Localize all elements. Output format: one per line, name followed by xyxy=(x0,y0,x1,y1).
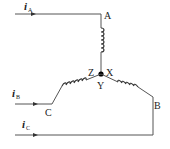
winding-a-coil xyxy=(101,28,104,52)
line-c-input xyxy=(15,133,153,137)
terminal-label-c: C xyxy=(45,107,52,118)
terminal-label-b: B xyxy=(154,100,161,111)
current-subscript-a: A xyxy=(28,7,33,13)
neutral-label-z: Z xyxy=(88,67,94,78)
winding-b-coil xyxy=(118,80,138,87)
arrow-icon xyxy=(33,102,38,106)
winding-c-coil xyxy=(62,78,86,86)
current-subscript-b: B xyxy=(16,94,20,100)
line-b-input xyxy=(15,102,52,106)
terminal-label-a: A xyxy=(104,10,112,21)
current-subscript-c: C xyxy=(26,125,30,131)
line-a xyxy=(15,12,101,28)
star-connection-diagram: i A A Z X Y i B C B i C xyxy=(0,0,170,149)
arrow-icon xyxy=(33,133,38,137)
neutral-label-x: X xyxy=(106,67,114,78)
neutral-label-y: Y xyxy=(97,80,104,91)
